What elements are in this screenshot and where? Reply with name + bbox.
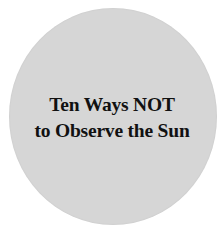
title-heading: Ten Ways NOT to Observe the Sun xyxy=(0,92,224,144)
title-line-1: Ten Ways NOT xyxy=(0,92,224,118)
title-line-2: to Observe the Sun xyxy=(0,118,224,144)
